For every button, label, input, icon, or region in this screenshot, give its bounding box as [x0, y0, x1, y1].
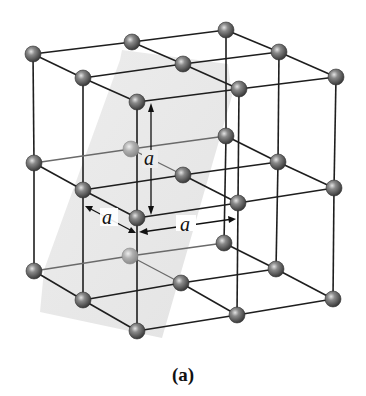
lattice-bond [238, 89, 239, 203]
lattice-bond [238, 188, 334, 203]
atom [26, 155, 42, 171]
lattice-bond [183, 52, 279, 64]
atom [270, 154, 286, 170]
lattice-bond [278, 162, 334, 188]
atom [175, 56, 191, 72]
atom [25, 46, 41, 62]
atom [271, 44, 287, 60]
lattice-bond [279, 52, 336, 77]
lattice-bond [181, 269, 276, 283]
lattice-bond [226, 30, 279, 52]
atom [218, 128, 234, 144]
vertical-dimension-label: a [144, 147, 154, 169]
lattice-bond [333, 188, 334, 299]
lattice-bond [34, 163, 83, 190]
atom [75, 292, 91, 308]
atom [122, 248, 138, 264]
lattice-bond [33, 54, 83, 78]
crystal-lattice-diagram: a a a [0, 0, 366, 396]
lattice-bond [132, 30, 226, 42]
lattice-bond [237, 299, 333, 315]
atom [75, 182, 91, 198]
atom [326, 180, 342, 196]
atom [231, 81, 247, 97]
lattice-bond [33, 54, 34, 163]
width-dimension-label: a [180, 213, 190, 235]
lattice-bond [226, 136, 278, 162]
atom [129, 210, 145, 226]
lattice-bond [276, 269, 333, 299]
lattice-bond [278, 52, 279, 162]
lattice-bond [237, 203, 238, 315]
lattice-bond [181, 283, 237, 315]
atom [325, 291, 341, 307]
atom [229, 307, 245, 323]
atom [26, 263, 42, 279]
atom [75, 70, 91, 86]
lattice-bond [334, 77, 336, 188]
arrowhead-right-icon [228, 216, 236, 223]
atom [230, 195, 246, 211]
atom [123, 141, 139, 157]
atom [173, 275, 189, 291]
atom [129, 94, 145, 110]
depth-dimension-label: a [102, 206, 112, 228]
atom [124, 34, 140, 50]
atom [129, 323, 145, 339]
atom [328, 69, 344, 85]
figure-caption: (a) [0, 364, 366, 386]
lattice-bond [224, 136, 226, 243]
atom [175, 167, 191, 183]
lattice-bond [239, 77, 336, 89]
lattice-bond [33, 42, 132, 54]
lattice-bond [276, 162, 278, 269]
lattice-bond [224, 243, 276, 269]
atom [216, 235, 232, 251]
atom [218, 22, 234, 38]
atom [268, 261, 284, 277]
